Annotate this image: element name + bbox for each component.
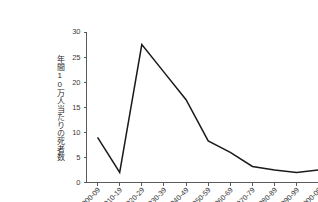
x-tick-label: 1940-49 <box>165 186 190 202</box>
x-tick-label: 2000-09 <box>298 186 318 202</box>
x-tick-label: 1950-59 <box>188 186 213 202</box>
x-tick-label: 1970-79 <box>232 186 257 202</box>
x-tick-label: 1900-09 <box>77 186 102 202</box>
chart-screenshot: 年間10万人当たりの死者数 051015202530 1900-091910-1… <box>0 0 318 202</box>
x-tick-label: 1960-69 <box>210 186 235 202</box>
y-axis-tick-labels: 051015202530 <box>72 27 80 187</box>
y-tick-label: 20 <box>72 78 80 87</box>
y-tick-label: 25 <box>72 53 80 62</box>
data-series-line <box>98 45 318 173</box>
x-tick-label: 1920-29 <box>121 186 146 202</box>
y-tick-label: 10 <box>72 128 80 137</box>
line-chart-figure: 年間10万人当たりの死者数 051015202530 1900-091910-1… <box>40 16 278 186</box>
y-tick-label: 15 <box>72 103 80 112</box>
x-tick-label: 1930-39 <box>143 186 168 202</box>
y-tick-label: 30 <box>72 27 80 36</box>
x-tick-label: 1910-19 <box>99 186 124 202</box>
x-tick-label: 1980-89 <box>254 186 279 202</box>
chart-canvas: 051015202530 1900-091910-191920-291930-3… <box>40 16 318 202</box>
x-axis-tick-labels: 1900-091910-191920-291930-391940-491950-… <box>77 186 318 202</box>
y-tick-label: 0 <box>76 178 80 187</box>
y-tick-label: 5 <box>76 153 80 162</box>
x-tick-label: 1990-99 <box>276 186 301 202</box>
